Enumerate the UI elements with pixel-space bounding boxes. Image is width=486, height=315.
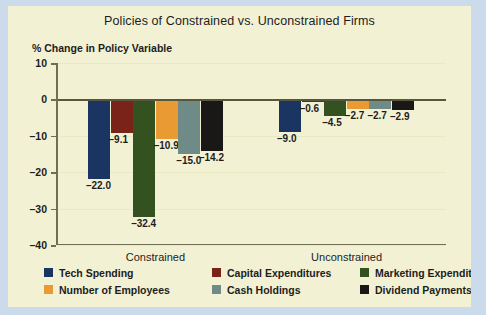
bar [201,99,223,151]
gridline [56,172,446,173]
legend-label: Dividend Payments [375,284,471,296]
bar-value-label: –2.9 [390,111,409,122]
bar-value-label: –4.5 [322,117,341,128]
y-tick-label: –40 [29,239,47,251]
gridline [56,209,446,210]
legend-label: Capital Expenditures [227,267,331,279]
y-tick-label: –30 [29,203,47,215]
plot-area: –22.0–9.1–32.4–10.9–15.0–14.2–9.0–0.6–4.… [56,63,446,245]
legend-label: Tech Spending [59,267,133,279]
y-tick-label: 10 [35,57,47,69]
legend-swatch-icon [44,285,53,294]
legend-swatch-icon [212,285,221,294]
bar-value-label: –15.0 [176,155,201,166]
y-tick-mark [51,245,56,247]
x-group-label: Unconstrained [311,251,382,263]
bar [88,99,110,179]
bar-value-label: –22.0 [86,180,111,191]
y-tick-mark [51,172,56,174]
legend-swatch-icon [360,268,369,277]
bar [178,99,200,154]
y-tick-mark [51,209,56,211]
y-tick-label: –10 [29,130,47,142]
bar-value-label: –32.4 [131,218,156,229]
chart-title: Policies of Constrained vs. Unconstraine… [8,14,471,28]
bar [347,99,369,109]
chart-figure: Policies of Constrained vs. Unconstraine… [8,6,471,307]
legend-label: Number of Employees [59,284,170,296]
bar [133,99,155,217]
bar-value-label: –0.6 [300,103,319,114]
bar [111,99,133,132]
bar [324,99,346,115]
legend-label: Marketing Expenditures [375,267,471,279]
legend-item[interactable]: Number of Employees [44,284,212,296]
bar [156,99,178,139]
legend-item[interactable]: Capital Expenditures [212,267,360,279]
bar-value-label: –14.2 [199,152,224,163]
gridline [56,63,446,64]
legend-item[interactable]: Cash Holdings [212,284,360,296]
bar [279,99,301,132]
bar [369,99,391,109]
x-group-label: Constrained [126,251,185,263]
bar-value-label: –2.7 [345,110,364,121]
y-tick-mark [51,99,56,101]
bar-value-label: –10.9 [154,140,179,151]
bar-value-label: –9.1 [109,134,128,145]
legend-item[interactable]: Tech Spending [44,267,212,279]
y-tick-label: 0 [41,93,47,105]
y-tick-mark [51,63,56,65]
y-axis-line [56,63,58,245]
legend-item[interactable]: Marketing Expenditures [360,267,471,279]
y-axis-label: % Change in Policy Variable [32,42,172,54]
x-axis-line [56,244,446,246]
bar [392,99,414,110]
legend-swatch-icon [212,268,221,277]
bar-value-label: –9.0 [277,133,296,144]
legend-swatch-icon [360,285,369,294]
bar-value-label: –2.7 [367,110,386,121]
legend-label: Cash Holdings [227,284,301,296]
y-tick-mark [51,136,56,138]
gridline [56,245,446,246]
y-tick-label: –20 [29,166,47,178]
legend-swatch-icon [44,268,53,277]
chart-legend: Tech SpendingCapital ExpendituresMarketi… [44,264,454,298]
legend-item[interactable]: Dividend Payments [360,284,471,296]
zero-line [56,99,446,100]
